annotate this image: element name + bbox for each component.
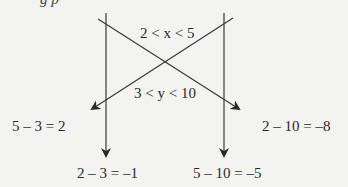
result-bottom-right: 5 – 10 = –5 [193,166,261,181]
result-bottom-left: 2 – 3 = –1 [77,166,138,181]
result-right: 2 – 10 = –8 [262,119,330,134]
result-left: 5 – 3 = 2 [12,119,65,134]
x-interval-label: 2 < x < 5 [140,26,194,41]
y-interval-text: 3 < y < 10 [134,85,196,101]
y-interval-label: 3 < y < 10 [134,86,196,101]
x-interval-text: 2 < x < 5 [140,25,194,41]
